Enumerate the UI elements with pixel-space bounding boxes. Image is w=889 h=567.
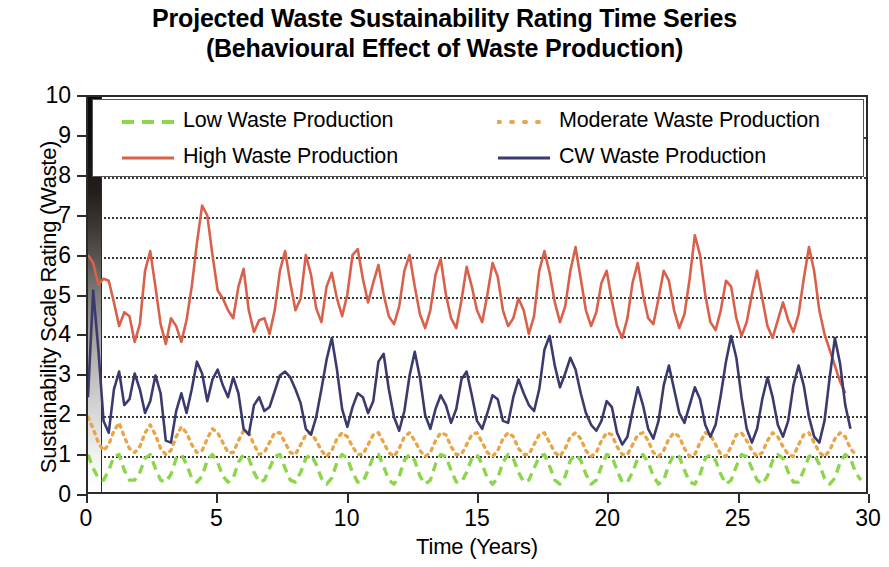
x-tick-mark-0 — [86, 494, 88, 503]
legend-swatch-cw-waste-production — [497, 151, 551, 163]
legend-label-cw-waste-production: CW Waste Production — [559, 146, 766, 168]
y-tick-mark-8 — [77, 175, 86, 177]
y-tick-mark-3 — [77, 374, 86, 376]
y-tick-mark-4 — [77, 334, 86, 336]
y-tick-label-6: 6 — [37, 244, 71, 267]
x-tick-label-10: 10 — [317, 507, 377, 530]
chart-title-line-1: Projected Waste Sustainability Rating Ti… — [0, 4, 889, 34]
legend-row-2: High Waste Production CW Waste Productio… — [93, 140, 863, 174]
legend-item-high-waste-production[interactable]: High Waste Production — [121, 140, 398, 174]
y-tick-mark-1 — [77, 454, 86, 456]
y-tick-mark-6 — [77, 255, 86, 257]
y-tick-mark-9 — [77, 135, 86, 137]
chart-title-line-2: (Behavioural Effect of Waste Production) — [0, 34, 889, 64]
y-tick-mark-2 — [77, 414, 86, 416]
y-tick-label-8: 8 — [37, 164, 71, 187]
legend-swatch-high-waste-production — [121, 151, 175, 163]
x-axis-title: Time (Years) — [86, 534, 868, 560]
series-line-moderate-waste-production — [88, 417, 856, 456]
page-title: Projected Waste Sustainability Rating Ti… — [0, 4, 889, 63]
x-tick-label-0: 0 — [56, 507, 116, 530]
x-tick-mark-10 — [347, 494, 349, 503]
x-tick-label-20: 20 — [577, 507, 637, 530]
y-tick-mark-10 — [77, 95, 86, 97]
legend-item-cw-waste-production[interactable]: CW Waste Production — [497, 140, 766, 174]
y-tick-label-0: 0 — [37, 483, 71, 506]
series-line-high-waste-production — [88, 206, 845, 394]
x-tick-mark-5 — [216, 494, 218, 503]
series-line-low-waste-production — [88, 454, 861, 484]
x-tick-mark-25 — [738, 494, 740, 503]
y-tick-mark-7 — [77, 215, 86, 217]
legend-item-moderate-waste-production[interactable]: Moderate Waste Production — [497, 104, 820, 138]
x-tick-mark-20 — [607, 494, 609, 503]
y-tick-label-1: 1 — [37, 443, 71, 466]
y-tick-label-10: 10 — [37, 84, 71, 107]
x-tick-label-30: 30 — [838, 507, 889, 530]
y-tick-label-2: 2 — [37, 403, 71, 426]
legend-item-low-waste-production[interactable]: Low Waste Production — [121, 104, 393, 138]
legend-swatch-low-waste-production — [121, 115, 175, 127]
legend-label-moderate-waste-production: Moderate Waste Production — [559, 110, 820, 132]
y-tick-label-3: 3 — [37, 363, 71, 386]
x-tick-label-15: 15 — [447, 507, 507, 530]
legend-label-high-waste-production: High Waste Production — [183, 146, 398, 168]
y-tick-label-5: 5 — [37, 284, 71, 307]
x-tick-label-5: 5 — [186, 507, 246, 530]
legend-label-low-waste-production: Low Waste Production — [183, 110, 393, 132]
x-tick-mark-30 — [868, 494, 870, 503]
y-tick-label-9: 9 — [37, 124, 71, 147]
y-tick-label-7: 7 — [37, 204, 71, 227]
legend: Low Waste Production Moderate Waste Prod… — [92, 99, 864, 177]
legend-swatch-moderate-waste-production — [497, 115, 551, 127]
y-tick-mark-0 — [77, 494, 86, 496]
y-tick-label-4: 4 — [37, 323, 71, 346]
x-tick-mark-15 — [477, 494, 479, 503]
x-tick-label-25: 25 — [708, 507, 768, 530]
legend-row-1: Low Waste Production Moderate Waste Prod… — [93, 104, 863, 138]
y-tick-mark-5 — [77, 295, 86, 297]
